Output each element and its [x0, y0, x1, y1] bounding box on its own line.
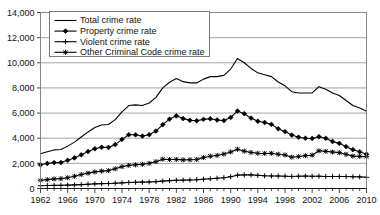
data-point-marker [194, 177, 199, 182]
data-point-marker [310, 136, 315, 141]
y-tick-label: 6,000 [12, 108, 35, 118]
data-point-marker [296, 174, 301, 179]
series-path [41, 58, 367, 153]
y-tick-label: 12,000 [7, 33, 35, 43]
x-tick-label: 1974 [112, 195, 132, 205]
data-point-marker [248, 150, 253, 155]
y-tick-label: 14,000 [7, 8, 35, 18]
data-point-marker [343, 152, 348, 157]
series-1 [41, 58, 367, 153]
data-point-marker [180, 178, 185, 183]
data-point-marker [174, 178, 179, 183]
data-point-marker [289, 133, 294, 138]
data-point-marker [255, 119, 260, 124]
x-tick-label: 1990 [221, 195, 241, 205]
data-point-marker [303, 136, 308, 141]
data-point-marker [147, 132, 152, 137]
data-point-marker [99, 169, 104, 174]
data-point-marker [337, 141, 342, 146]
y-tick-label: 4,000 [12, 133, 35, 143]
data-point-marker [351, 147, 356, 152]
data-point-marker [221, 152, 226, 157]
data-point-marker [201, 177, 206, 182]
data-point-marker [276, 152, 281, 157]
y-tick-label: 10,000 [7, 58, 35, 68]
data-point-marker [282, 152, 287, 157]
data-point-marker [85, 182, 90, 187]
data-point-marker [350, 174, 355, 179]
data-point-marker [248, 172, 253, 177]
data-point-marker [92, 181, 97, 186]
data-point-marker [45, 177, 50, 182]
data-point-marker [85, 171, 90, 176]
data-point-marker [316, 148, 321, 153]
data-point-marker [276, 173, 281, 178]
data-point-marker [106, 145, 111, 150]
legend-item-label: Property crime rate [80, 26, 157, 36]
data-point-marker [153, 179, 158, 184]
data-point-marker [174, 113, 179, 118]
data-point-marker [221, 175, 226, 180]
data-point-marker [316, 174, 321, 179]
data-point-marker [201, 117, 206, 122]
data-point-marker [214, 153, 219, 158]
data-point-marker [79, 152, 84, 157]
data-point-marker [45, 183, 50, 188]
data-point-marker [187, 157, 192, 162]
data-point-marker [242, 149, 247, 154]
series-path [41, 149, 367, 180]
data-point-marker [58, 176, 63, 181]
data-point-marker [133, 162, 138, 167]
data-point-marker [330, 139, 335, 144]
data-series [38, 58, 369, 188]
legend-item-label: Violent crime rate [80, 37, 150, 47]
data-point-marker [119, 180, 124, 185]
x-tick-label: 2002 [302, 195, 322, 205]
data-point-marker [65, 175, 70, 180]
data-point-marker [79, 172, 84, 177]
data-point-marker [194, 157, 199, 162]
data-point-marker [72, 174, 77, 179]
data-point-marker [309, 174, 314, 179]
x-tick-label: 1986 [193, 195, 213, 205]
data-point-marker [146, 161, 151, 166]
data-point-marker [303, 174, 308, 179]
data-point-marker [235, 173, 240, 178]
data-point-marker [296, 135, 301, 140]
data-point-marker [58, 183, 63, 188]
data-point-marker [106, 181, 111, 186]
y-tick-label: 2,000 [12, 159, 35, 169]
chart-legend: Total crime rateProperty crime rateViole… [50, 12, 210, 58]
data-point-marker [153, 159, 158, 164]
data-point-marker [255, 173, 260, 178]
data-point-marker [323, 136, 328, 141]
series-3 [38, 172, 369, 188]
data-point-marker [133, 180, 138, 185]
data-point-marker [208, 116, 213, 121]
y-tick-label: 8,000 [12, 83, 35, 93]
legend-item-label: Other Criminal Code crime rate [80, 47, 205, 57]
data-point-marker [86, 149, 91, 154]
data-point-marker [106, 168, 111, 173]
data-point-marker [344, 144, 349, 149]
data-point-marker [63, 50, 68, 55]
data-point-marker [194, 118, 199, 123]
data-point-marker [343, 174, 348, 179]
x-axis-labels: 1962196619701974197819821986199019941998… [30, 195, 376, 205]
data-point-marker [113, 181, 118, 186]
data-point-marker [283, 129, 288, 134]
data-point-marker [242, 172, 247, 177]
x-tick-label: 1994 [248, 195, 268, 205]
data-point-marker [255, 151, 260, 156]
data-point-marker [79, 182, 84, 187]
data-point-marker [262, 173, 267, 178]
data-point-marker [357, 154, 362, 159]
x-tick-label: 1978 [139, 195, 159, 205]
data-point-marker [99, 145, 104, 150]
x-tick-label: 1982 [166, 195, 186, 205]
data-point-marker [113, 166, 118, 171]
data-point-marker [188, 118, 193, 123]
data-point-marker [269, 151, 274, 156]
x-tick-label: 2010 [356, 195, 376, 205]
data-point-marker [208, 176, 213, 181]
